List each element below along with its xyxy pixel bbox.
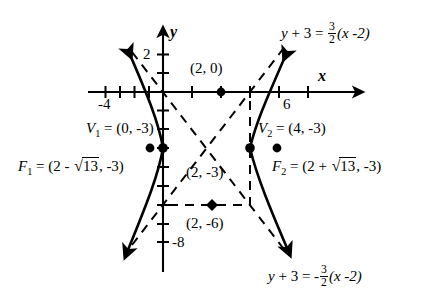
eq-pos-numerator: 3 xyxy=(328,21,336,34)
focus-left-symbol: F xyxy=(18,158,27,174)
x-tick-label-6: 6 xyxy=(283,97,291,112)
focus-right-radicand: 13 xyxy=(339,157,356,174)
eq-neg-plus: + 3 = xyxy=(275,268,314,284)
eq-neg-fraction: 32 xyxy=(320,264,328,289)
focus-left-radical: √13 xyxy=(73,158,99,174)
eq-pos-denominator: 2 xyxy=(328,34,336,46)
equation-asymptote-negative: y + 3 = -32(x -2) xyxy=(268,265,362,290)
label-vertex-left: V1 = (0, -3) xyxy=(86,121,154,139)
equation-asymptote-positive: y + 3 = 32(x -2) xyxy=(281,22,370,47)
focus-right-prefix: = (2 + xyxy=(286,158,330,174)
focus-right-suffix: , -3) xyxy=(356,158,381,174)
label-vertex-right: V2 = (4, -3) xyxy=(258,121,326,139)
x-axis-label: x xyxy=(318,68,326,84)
y-axis-label: y xyxy=(170,24,177,40)
right-branch xyxy=(250,52,287,248)
point-vertex-right xyxy=(245,143,255,153)
label-focus-right: F2 = (2 + √13, -3) xyxy=(272,158,381,177)
x-tick-label-minus4: -4 xyxy=(98,97,111,112)
left-branch xyxy=(128,50,163,250)
vertex-left-symbol: V xyxy=(86,120,95,136)
point-focus-left xyxy=(146,144,155,153)
eq-pos-rhs: (x -2) xyxy=(337,25,370,41)
point-2-0 xyxy=(217,88,226,97)
focus-right-radical: √13 xyxy=(331,158,357,174)
y-tick-label-2: 2 xyxy=(143,47,151,62)
eq-pos-plus: + 3 = xyxy=(288,25,327,41)
focus-left-suffix: , -3) xyxy=(99,158,124,174)
focus-left-radicand: 13 xyxy=(82,157,99,174)
eq-neg-rhs: (x -2) xyxy=(329,268,362,284)
vertex-right-value: = (4, -3) xyxy=(272,120,325,136)
vertex-right-symbol: V xyxy=(258,120,267,136)
eq-pos-lhs: y xyxy=(281,25,288,41)
hyperbola-figure: y x -4 6 2 -8 (2, 0) (2, -3) (2, -6) V1 … xyxy=(0,0,424,300)
point-2-minus6 xyxy=(206,199,218,211)
marked-points xyxy=(146,88,282,211)
eq-neg-sign: - xyxy=(314,268,319,284)
point-vertex-left xyxy=(158,143,168,153)
label-center-2-minus3: (2, -3) xyxy=(186,165,224,180)
eq-neg-denominator: 2 xyxy=(320,277,328,289)
point-focus-right xyxy=(273,144,282,153)
y-tick-label-minus8: -8 xyxy=(172,235,185,250)
focus-right-symbol: F xyxy=(272,158,281,174)
eq-pos-fraction: 32 xyxy=(328,21,336,46)
eq-neg-lhs: y xyxy=(268,268,275,284)
label-point-2-0: (2, 0) xyxy=(190,61,223,76)
focus-left-prefix: = (2 - xyxy=(32,158,73,174)
vertex-left-value: = (0, -3) xyxy=(100,120,153,136)
label-focus-left: F1 = (2 - √13, -3) xyxy=(18,158,124,177)
label-point-2-minus6: (2, -6) xyxy=(186,216,224,231)
eq-neg-numerator: 3 xyxy=(320,264,328,277)
